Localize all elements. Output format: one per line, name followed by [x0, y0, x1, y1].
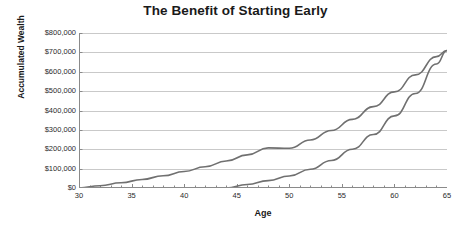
- x-tick-label: 60: [379, 192, 409, 200]
- plot-area: [79, 33, 447, 188]
- y-tick-label: $400,000: [20, 107, 76, 115]
- gridlines: [79, 34, 447, 189]
- y-tick-label: $800,000: [20, 29, 76, 37]
- x-axis-title: Age: [79, 208, 447, 218]
- y-tick-label: $500,000: [20, 87, 76, 95]
- x-tick-label: 40: [169, 192, 199, 200]
- x-tick-label: 55: [327, 192, 357, 200]
- y-tick-label: $600,000: [20, 68, 76, 76]
- chart-container: The Benefit of Starting Early Accumulate…: [0, 0, 471, 229]
- y-tick-label: $0: [20, 184, 76, 192]
- y-tick-label: $300,000: [20, 126, 76, 134]
- y-tick-label: $700,000: [20, 48, 76, 56]
- data-series-group: [79, 50, 447, 188]
- y-axis-tick-labels: $0$100,000$200,000$300,000$400,000$500,0…: [18, 33, 76, 188]
- x-tick-label: 45: [222, 192, 252, 200]
- y-tick-label: $100,000: [20, 165, 76, 173]
- series-line-late-start-investor: [79, 50, 447, 188]
- chart-title: The Benefit of Starting Early: [0, 3, 471, 18]
- x-axis-tick-labels: 3035404550556065: [79, 192, 447, 204]
- x-tick-label: 35: [117, 192, 147, 200]
- chart-plot-svg: [79, 33, 447, 188]
- y-tick-label: $200,000: [20, 145, 76, 153]
- x-tick-marks: [79, 34, 447, 189]
- x-tick-label: 30: [64, 192, 94, 200]
- x-tick-label: 65: [432, 192, 462, 200]
- series-line-early-start-investor: [79, 50, 447, 188]
- x-tick-label: 50: [274, 192, 304, 200]
